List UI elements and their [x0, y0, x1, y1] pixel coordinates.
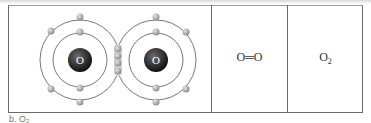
formula-subscript: 2 [328, 57, 332, 66]
oxygen-atom-left: O [40, 14, 120, 106]
formula-symbol: O [319, 50, 328, 64]
shared-electron-pairs [114, 44, 122, 76]
oxygen-atom-right: O [116, 14, 196, 106]
nucleus-label: O [152, 54, 160, 66]
figure-caption: b. O₂ [9, 114, 30, 123]
structural-formula: O═O [212, 50, 287, 65]
molecular-formula: O2 [288, 50, 363, 66]
nucleus-label: O [76, 54, 84, 66]
